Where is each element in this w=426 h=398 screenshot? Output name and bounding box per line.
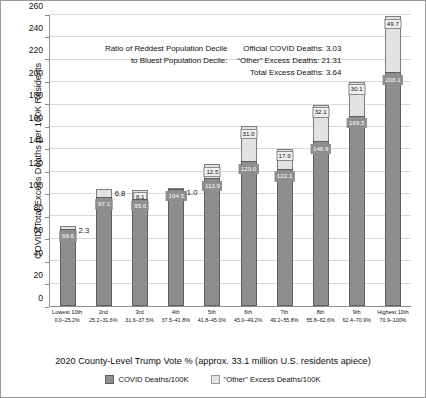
y-axis-tick xyxy=(45,59,49,60)
annotation-stat-total-excess: Total Excess Deaths: 3.64 xyxy=(237,67,341,79)
y-axis-tick-label: 240 xyxy=(29,23,43,33)
y-axis-tick-label: 200 xyxy=(29,68,43,78)
y-axis-tick xyxy=(45,217,49,218)
y-axis-tick xyxy=(45,15,49,16)
y-axis-tick xyxy=(45,284,49,285)
x-axis-category-label: 2nd25.2–31.6% xyxy=(85,309,121,324)
stacked-bar[interactable]: 1.0104.5 xyxy=(168,188,184,306)
bar-segment-covid[interactable]: 208.1 xyxy=(385,72,401,306)
bar-segment-covid[interactable]: 146.9 xyxy=(313,141,329,306)
bar-value-label-covid: 68.6 xyxy=(60,231,77,241)
x-axis-category-label: Highest 10th70.9–100% xyxy=(375,309,411,324)
x-category-name: Highest 10th xyxy=(375,309,411,317)
bar-segment-other-excess[interactable]: 32.1 xyxy=(313,105,329,141)
x-category-range: 25.2–31.6% xyxy=(85,317,121,324)
bar-segment-other-excess[interactable]: 12.5 xyxy=(204,164,220,178)
x-category-range: 41.8–45.0% xyxy=(194,317,230,324)
x-axis-category-label: 9th62.4–70.9% xyxy=(339,309,375,324)
x-axis-category-label: Lowest 10th0.0–25.2% xyxy=(49,309,85,324)
legend-item-covid: COVID Deaths/100K xyxy=(105,375,188,384)
bar-segment-covid[interactable]: 68.6 xyxy=(60,229,76,306)
bar-segment-covid[interactable]: 104.5 xyxy=(168,189,184,306)
bar-value-label-other: 32.1 xyxy=(312,107,329,117)
y-axis-tick-label: 20 xyxy=(33,270,43,280)
y-axis-tick-label: 60 xyxy=(33,225,43,235)
bar-segment-covid[interactable]: 97.1 xyxy=(96,197,112,306)
y-axis-tick-label: 220 xyxy=(29,45,43,55)
y-axis-tick xyxy=(45,149,49,150)
annotation-stats: Official COVID Deaths: 3.03 “Other” Exce… xyxy=(237,43,341,79)
x-axis-category-label: 6th45.0–49.2% xyxy=(230,309,266,324)
y-axis-tick xyxy=(45,104,49,105)
legend-label-other: "Other" Excess Deaths/100K xyxy=(224,375,321,384)
annotation-ratio-line-2: to Bluest Population Decile: xyxy=(105,55,227,67)
bar-segment-covid[interactable]: 169.5 xyxy=(349,116,365,306)
bar-value-label-other: 30.1 xyxy=(348,84,365,94)
bar-segment-other-excess[interactable]: 17.9 xyxy=(277,149,293,169)
x-category-name: 6th xyxy=(230,309,266,317)
x-category-range: 49.2–55.8% xyxy=(266,317,302,324)
annotation-stat-other-excess: “Other” Excess Deaths: 21.31 xyxy=(237,55,341,67)
x-category-name: 9th xyxy=(339,309,375,317)
bar-value-label-covid: 129.0 xyxy=(238,164,258,174)
x-category-range: 62.4–70.9% xyxy=(339,317,375,324)
x-category-name: 7th xyxy=(266,309,302,317)
bar-segment-other-excess[interactable]: 8.1 xyxy=(132,190,148,199)
y-axis-tick-label: 180 xyxy=(29,90,43,100)
y-axis-tick xyxy=(45,194,49,195)
bar-value-label-covid: 146.9 xyxy=(310,144,330,154)
y-axis-tick xyxy=(45,37,49,38)
y-axis-tick xyxy=(45,172,49,173)
stacked-bar[interactable]: 8.195.6 xyxy=(132,190,148,306)
x-axis-category-label: 3rd31.6–37.5% xyxy=(121,309,157,324)
bar-value-label-covid: 208.1 xyxy=(383,75,403,85)
bar-segment-covid[interactable]: 129.0 xyxy=(241,161,257,306)
y-axis-tick-label: 140 xyxy=(29,135,43,145)
bar-segment-covid[interactable]: 113.9 xyxy=(204,178,220,306)
x-category-name: 8th xyxy=(302,309,338,317)
bar-segment-other-excess[interactable]: 31.0 xyxy=(241,126,257,161)
annotation-ratio-label: Ratio of Reddest Population Decile to Bl… xyxy=(105,43,227,79)
bar-value-label-other: 12.5 xyxy=(204,167,221,177)
x-category-range: 55.8–62.6% xyxy=(302,317,338,324)
stacked-bar[interactable]: 49.7208.1 xyxy=(385,16,401,306)
bar-segment-covid[interactable]: 122.1 xyxy=(277,169,293,306)
y-axis-tick-label: 80 xyxy=(33,203,43,213)
stacked-bar[interactable]: 12.5113.9 xyxy=(204,164,220,306)
stacked-bar[interactable]: 17.9122.1 xyxy=(277,149,293,306)
stacked-bar[interactable]: 2.368.6 xyxy=(60,226,76,306)
x-category-range: 45.0–49.2% xyxy=(230,317,266,324)
x-category-range: 31.6–37.5% xyxy=(121,317,157,324)
stacked-bar[interactable]: 6.897.1 xyxy=(96,189,112,306)
y-axis-tick-label: 260 xyxy=(29,1,43,11)
y-axis-tick xyxy=(45,127,49,128)
bar-slot: 49.7208.1 xyxy=(375,15,411,306)
bar-value-label-other: 17.9 xyxy=(276,151,293,161)
x-axis-category-label: 5th41.8–45.0% xyxy=(194,309,230,324)
bar-value-label-covid: 95.6 xyxy=(132,201,149,211)
bar-value-label-covid: 104.5 xyxy=(166,191,186,201)
bar-segment-covid[interactable]: 95.6 xyxy=(132,199,148,306)
y-axis-tick xyxy=(45,239,49,240)
y-axis-tick-label: 40 xyxy=(33,248,43,258)
stacked-bar[interactable]: 30.1169.5 xyxy=(349,82,365,306)
x-category-name: 3rd xyxy=(121,309,157,317)
stacked-bar[interactable]: 32.1146.9 xyxy=(313,105,329,306)
annotation-block: Ratio of Reddest Population Decile to Bl… xyxy=(105,43,341,79)
bar-segment-other-excess[interactable]: 49.7 xyxy=(385,16,401,72)
x-category-name: 2nd xyxy=(85,309,121,317)
legend-label-covid: COVID Deaths/100K xyxy=(118,375,188,384)
stacked-bar[interactable]: 31.0129.0 xyxy=(241,126,257,306)
y-axis-tick-label: 100 xyxy=(29,180,43,190)
x-axis-title: 2020 County-Level Trump Vote % (approx. … xyxy=(1,356,425,366)
bar-slot: 2.368.6 xyxy=(50,15,86,306)
x-axis-category-label: 7th49.2–55.8% xyxy=(266,309,302,324)
x-axis-category-label: 8th55.8–62.6% xyxy=(302,309,338,324)
bar-segment-other-excess[interactable]: 30.1 xyxy=(349,82,365,116)
chart-figure: COVID/Total Excess Deaths per 100K Resid… xyxy=(0,0,426,398)
bar-segment-other-excess[interactable]: 6.8 xyxy=(96,189,112,197)
chart-legend: COVID Deaths/100K "Other" Excess Deaths/… xyxy=(1,375,425,384)
bar-value-label-covid: 97.1 xyxy=(96,199,113,209)
x-category-range: 0.0–25.2% xyxy=(49,317,85,324)
x-category-range: 70.9–100% xyxy=(375,317,411,324)
